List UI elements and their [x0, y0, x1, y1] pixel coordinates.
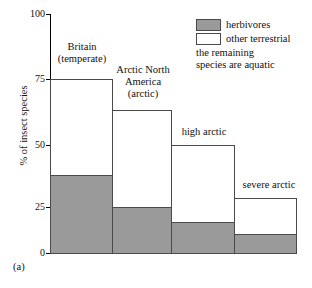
bar-label-arctic-north-america: Arctic North America (arctic) — [104, 64, 182, 100]
legend-note: the remaining species are aquatic — [196, 47, 312, 71]
bar-herbivores-high-arctic[interactable] — [171, 222, 235, 254]
legend-label-other-terrestrial: other terrestrial — [226, 33, 290, 45]
bar-label-severe-arctic: severe arctic — [228, 179, 310, 191]
y-tick-label-50: 50 — [35, 140, 45, 150]
legend-swatch-herbivores — [196, 19, 221, 31]
y-tick-label-100: 100 — [30, 9, 45, 19]
y-tick-label-75: 75 — [35, 74, 45, 84]
legend-item-other-terrestrial: other terrestrial — [196, 33, 312, 45]
legend-item-herbivores: herbivores — [196, 19, 312, 31]
y-tick-mark-100 — [46, 14, 50, 15]
legend: herbivores other terrestrial the remaini… — [196, 19, 312, 71]
y-tick-label-0: 0 — [40, 248, 45, 258]
bar-label-britain: Britain (temperate) — [47, 41, 117, 65]
bar-herbivores-arctic-north-america[interactable] — [112, 207, 172, 254]
y-tick-0: 0 — [0, 248, 45, 258]
bar-herbivores-britain[interactable] — [50, 175, 113, 254]
bar-label-high-arctic: high arctic — [168, 126, 240, 138]
y-tick-25: 25 — [0, 202, 45, 212]
y-tick-100: 100 — [0, 9, 45, 19]
y-tick-75: 75 — [0, 74, 45, 84]
figure-panel-a: % of insect species 100 75 50 25 0 Brita… — [0, 0, 312, 288]
y-tick-label-25: 25 — [35, 202, 45, 212]
legend-label-herbivores: herbivores — [226, 19, 270, 31]
legend-swatch-other-terrestrial — [196, 33, 221, 45]
panel-label: (a) — [13, 261, 25, 273]
y-tick-50: 50 — [0, 140, 45, 150]
bar-herbivores-severe-arctic[interactable] — [234, 234, 297, 254]
